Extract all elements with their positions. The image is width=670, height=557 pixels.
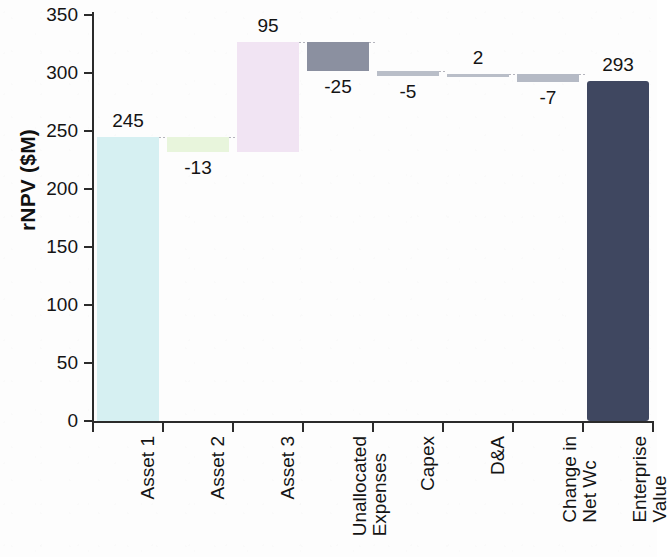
category-label-line: D&A bbox=[487, 436, 508, 475]
category-label-line: Unallocated bbox=[349, 436, 370, 536]
category-label-asset-1: Asset 1 bbox=[138, 436, 158, 499]
category-label-line: Asset 2 bbox=[207, 436, 228, 499]
category-label-enterprise-value: EnterpriseValue bbox=[630, 436, 670, 523]
category-label-line: Change in bbox=[559, 436, 580, 523]
category-label-line: Enterprise bbox=[629, 436, 650, 523]
category-label-change-in-net-wc: Change inNet Wc bbox=[560, 436, 600, 523]
category-label-line: Asset 1 bbox=[137, 436, 158, 499]
category-label-d-a: D&A bbox=[488, 436, 508, 475]
category-label-asset-2: Asset 2 bbox=[208, 436, 228, 499]
category-label-line: Net Wc bbox=[580, 436, 600, 523]
category-label-capex: Capex bbox=[418, 436, 438, 491]
category-label-line: Asset 3 bbox=[277, 436, 298, 499]
category-label-unallocated-expenses: UnallocatedExpenses bbox=[350, 436, 390, 536]
category-label-line: Value bbox=[650, 436, 670, 523]
category-label-asset-3: Asset 3 bbox=[278, 436, 298, 499]
category-label-line: Capex bbox=[417, 436, 438, 491]
category-label-line: Expenses bbox=[370, 436, 390, 536]
